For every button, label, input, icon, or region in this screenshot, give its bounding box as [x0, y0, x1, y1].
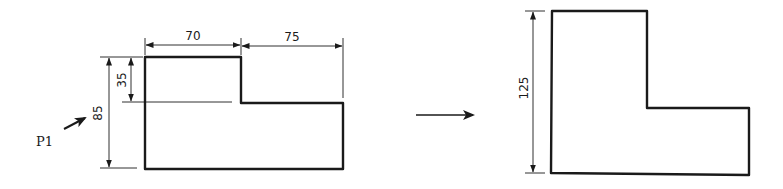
dim-text-125: 125	[517, 77, 531, 100]
p1-pointer-arrow-icon	[64, 118, 85, 129]
left-figure: 70 75 35 85 P1	[36, 29, 343, 169]
dim-text-75: 75	[284, 30, 299, 44]
left-shape-outline	[145, 57, 343, 169]
dim-text-35: 35	[115, 72, 129, 87]
right-shape-outline	[551, 11, 749, 175]
dim-text-85: 85	[91, 105, 105, 120]
right-figure: 125	[517, 11, 749, 175]
drawing-canvas: 70 75 35 85 P1 125	[0, 0, 783, 189]
dim-text-70: 70	[185, 29, 200, 43]
point-label-p1: P1	[36, 134, 53, 149]
